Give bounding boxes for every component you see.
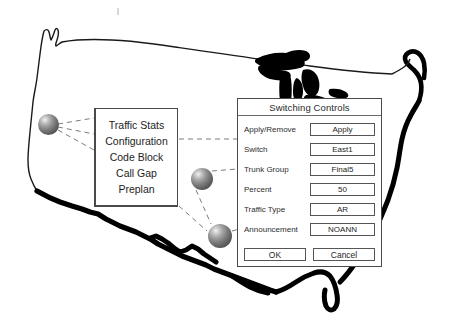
traffic-management-menu: Traffic Stats Configuration Code Block C… bbox=[94, 108, 178, 207]
field-input-switch[interactable]: East1 bbox=[310, 143, 375, 156]
switching-controls-dialog: Switching Controls Apply/Remove Apply Sw… bbox=[237, 98, 382, 267]
figure-canvas: Traffic Stats Configuration Code Block C… bbox=[0, 0, 459, 313]
field-value-percent: 50 bbox=[338, 185, 347, 194]
field-row-apply-remove: Apply/Remove Apply bbox=[244, 120, 375, 139]
connector-menu-to-south bbox=[179, 206, 207, 231]
field-row-announcement: Announcement NOANN bbox=[244, 220, 375, 239]
field-input-apply-remove[interactable]: Apply bbox=[310, 123, 375, 136]
cancel-button-label: Cancel bbox=[331, 250, 357, 260]
dialog-titlebar: Switching Controls bbox=[238, 99, 381, 116]
dialog-body: Apply/Remove Apply Switch East1 Trunk Gr… bbox=[238, 116, 381, 239]
network-node-central[interactable] bbox=[191, 168, 213, 190]
menu-item-code-block[interactable]: Code Block bbox=[110, 150, 164, 164]
field-label-trunk-group: Trunk Group bbox=[244, 165, 310, 174]
field-label-traffic-type: Traffic Type bbox=[244, 205, 310, 214]
field-label-announcement: Announcement bbox=[244, 225, 310, 234]
field-value-announcement: NOANN bbox=[328, 225, 357, 234]
field-input-trunk-group[interactable]: Final5 bbox=[310, 163, 375, 176]
field-row-trunk-group: Trunk Group Final5 bbox=[244, 160, 375, 179]
menu-item-call-gap[interactable]: Call Gap bbox=[116, 166, 157, 180]
menu-item-preplan[interactable]: Preplan bbox=[118, 182, 154, 196]
connector-west-to-menu-top bbox=[58, 118, 94, 124]
field-row-percent: Percent 50 bbox=[244, 180, 375, 199]
field-row-traffic-type: Traffic Type AR bbox=[244, 200, 375, 219]
field-input-announcement[interactable]: NOANN bbox=[310, 223, 375, 236]
field-label-switch: Switch bbox=[244, 145, 310, 154]
field-label-apply-remove: Apply/Remove bbox=[244, 125, 310, 134]
ok-button[interactable]: OK bbox=[244, 248, 306, 261]
field-label-percent: Percent bbox=[244, 185, 310, 194]
connector-west-to-menu-middle bbox=[58, 127, 94, 134]
network-node-south[interactable] bbox=[208, 224, 232, 248]
network-node-west[interactable] bbox=[38, 114, 59, 135]
menu-item-configuration[interactable]: Configuration bbox=[105, 134, 167, 148]
field-row-switch: Switch East1 bbox=[244, 140, 375, 159]
connector-central-to-south bbox=[196, 190, 211, 224]
field-value-apply-remove: Apply bbox=[332, 125, 352, 134]
cancel-button[interactable]: Cancel bbox=[313, 248, 375, 261]
field-input-traffic-type[interactable]: AR bbox=[310, 203, 375, 216]
field-value-trunk-group: Final5 bbox=[332, 165, 354, 174]
field-value-traffic-type: AR bbox=[337, 205, 348, 214]
dialog-title: Switching Controls bbox=[269, 102, 349, 113]
connector-central-to-dialog bbox=[212, 169, 237, 171]
field-input-percent[interactable]: 50 bbox=[310, 183, 375, 196]
dialog-button-bar: OK Cancel bbox=[244, 248, 375, 261]
field-value-switch: East1 bbox=[332, 145, 352, 154]
menu-item-traffic-stats[interactable]: Traffic Stats bbox=[109, 118, 164, 132]
connector-layer bbox=[0, 0, 459, 313]
ok-button-label: OK bbox=[269, 250, 281, 260]
